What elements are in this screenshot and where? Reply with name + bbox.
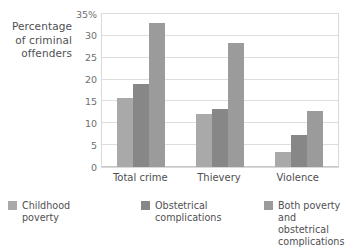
x-axis-category-labels: Total crimeThieveryViolence (101, 172, 339, 188)
bar-group (196, 14, 244, 167)
legend-label-line: Obstetrical (155, 200, 221, 212)
bar (149, 23, 165, 167)
x-axis-category-label: Total crime (101, 172, 180, 184)
y-axis-tick-label: 30 (69, 31, 97, 41)
bar (291, 135, 307, 167)
legend-label-line: poverty (22, 212, 70, 224)
bar (212, 109, 228, 167)
legend-label-line: complications (155, 212, 221, 224)
legend-swatch-icon (141, 201, 150, 210)
legend-item[interactable]: Both poverty andobstetrical complication… (264, 200, 347, 248)
legend-label: Obstetricalcomplications (155, 200, 221, 224)
bar (117, 98, 133, 167)
bar-group (117, 14, 165, 167)
bar (133, 84, 149, 167)
legend-label: Childhoodpoverty (22, 200, 70, 224)
bar (307, 111, 323, 167)
bar (196, 114, 212, 167)
y-axis-tick-label: 0 (69, 163, 97, 173)
y-axis-tick-label: 10 (69, 119, 97, 129)
y-axis-tick-label: 15 (69, 97, 97, 107)
chart-legend: ChildhoodpovertyObstetricalcomplications… (8, 200, 347, 236)
y-axis-tick-label: 35% (69, 10, 97, 20)
bar (228, 43, 244, 167)
y-axis-tick-label: 20 (69, 75, 97, 85)
y-axis-tick-label: 25 (69, 53, 97, 63)
y-axis-title-line-1: Percentage (12, 20, 72, 32)
x-axis-category-label: Thievery (180, 172, 259, 184)
y-axis-title-line-2: of criminal (15, 34, 72, 46)
y-axis-title-line-3: offenders (21, 47, 72, 59)
legend-item[interactable]: Childhoodpoverty (8, 200, 70, 224)
bar-group (275, 14, 323, 167)
y-axis-tick-labels: 05101520253035% (67, 13, 97, 168)
legend-label-line: Childhood (22, 200, 70, 212)
legend-label-line: Both poverty and (278, 200, 347, 224)
bar (275, 152, 291, 167)
plot-inner (102, 14, 338, 167)
legend-label: Both poverty andobstetrical complication… (278, 200, 347, 248)
plot-area (101, 13, 339, 168)
x-axis-category-label: Violence (258, 172, 337, 184)
legend-label-line: obstetrical complications (278, 224, 347, 248)
legend-swatch-icon (264, 201, 273, 210)
legend-item[interactable]: Obstetricalcomplications (141, 200, 221, 224)
y-axis-tick-label: 5 (69, 141, 97, 151)
y-axis-title: Percentage of criminal offenders (2, 20, 72, 61)
legend-swatch-icon (8, 201, 17, 210)
